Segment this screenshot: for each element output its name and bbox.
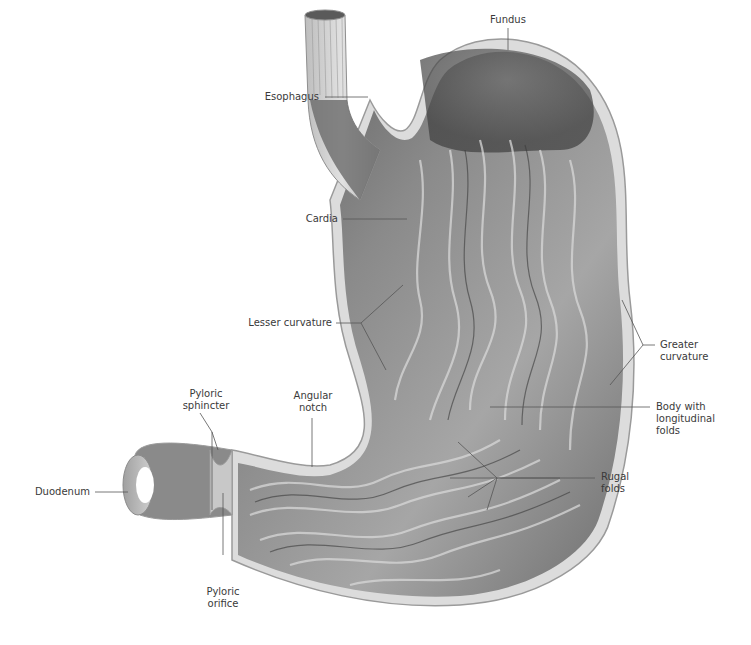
- stomach-illustration: [0, 0, 751, 645]
- label-cardia: Cardia: [290, 213, 338, 225]
- label-esophagus: Esophagus: [244, 91, 319, 103]
- label-duodenum: Duodenum: [20, 486, 90, 498]
- label-angular-notch: Angular notch: [285, 390, 341, 414]
- label-greater-curvature: Greater curvature: [660, 339, 740, 363]
- label-pyloric-sphincter: Pyloric sphincter: [170, 388, 242, 412]
- label-lesser-curvature: Lesser curvature: [240, 317, 332, 329]
- label-pyloric-orifice: Pyloric orifice: [195, 586, 251, 610]
- label-fundus: Fundus: [478, 14, 538, 26]
- label-rugal-folds: Rugal folds: [601, 471, 661, 495]
- stomach-anatomy-diagram: Esophagus Fundus Cardia Lesser curvature…: [0, 0, 751, 645]
- label-body-with-longitudinal-folds: Body with longitudinal folds: [656, 401, 746, 437]
